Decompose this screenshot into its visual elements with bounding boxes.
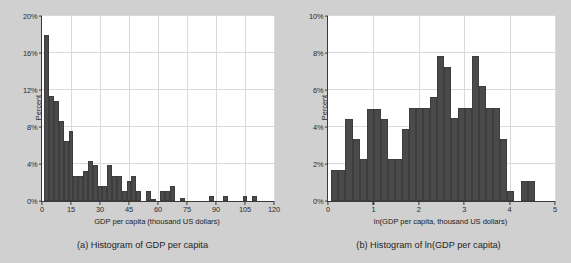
histogram-bar <box>472 56 479 201</box>
histogram-bar <box>388 159 395 201</box>
x-axis-tick-mark <box>418 201 419 205</box>
gridline-vertical <box>158 16 159 201</box>
x-axis-tick-mark <box>509 201 510 205</box>
chart-a-x-axis-label: GDP per capita (thousand US dollars) <box>41 217 273 226</box>
x-axis-tick-mark <box>99 201 100 205</box>
gridline-horizontal <box>328 52 555 53</box>
histogram-bar <box>486 108 493 201</box>
histogram-bar <box>528 181 535 201</box>
chart-b-x-axis-label: ln(GDP per capita, thousand US dollars) <box>327 217 554 226</box>
histogram-bar <box>374 109 381 202</box>
chart-a-y-axis-label: Percent <box>34 77 43 137</box>
chart-b-caption: (b) Histogram of ln(GDP per capita) <box>286 240 571 250</box>
chart-b-axes: 0%2%4%6%8%10%012345 <box>327 16 555 202</box>
histogram-bar <box>451 118 458 201</box>
histogram-bar <box>409 108 416 201</box>
histogram-bar <box>507 191 514 201</box>
chart-b-y-axis-label: Percent <box>320 77 329 137</box>
x-axis-tick-mark <box>41 201 42 205</box>
gridline-vertical <box>216 16 217 201</box>
gridline-vertical <box>555 16 556 201</box>
histogram-bar <box>500 139 507 201</box>
histogram-bar <box>430 97 437 201</box>
y-axis-tick-mark <box>325 52 329 53</box>
histogram-bar <box>360 159 367 201</box>
histogram-bar <box>479 86 486 201</box>
x-axis-tick-mark <box>244 201 245 205</box>
figure-canvas: 0%4%8%12%16%20%0153045607590105120 Perce… <box>0 0 571 263</box>
histogram-bar <box>444 67 451 201</box>
histogram-bar <box>345 119 352 201</box>
gridline-vertical <box>187 16 188 201</box>
chart-a-plot-area: 0%4%8%12%16%20%0153045607590105120 <box>41 16 273 201</box>
histogram-bar <box>331 170 338 201</box>
x-axis-tick-mark <box>554 201 555 205</box>
x-axis-tick-mark <box>186 201 187 205</box>
histogram-bar <box>493 108 500 201</box>
histogram-bar <box>521 181 528 201</box>
x-axis-tick-mark <box>327 201 328 205</box>
x-axis-tick-mark <box>128 201 129 205</box>
histogram-bar <box>170 186 175 201</box>
y-axis-tick-mark <box>325 15 329 16</box>
histogram-bar <box>402 129 409 201</box>
histogram-bar <box>136 191 141 201</box>
x-axis-tick-mark <box>373 201 374 205</box>
histogram-bar <box>465 108 472 201</box>
x-axis-tick-mark <box>273 201 274 205</box>
histogram-bar <box>395 159 402 201</box>
histogram-bar <box>252 196 257 201</box>
histogram-bar <box>416 108 423 201</box>
histogram-bar <box>381 119 388 201</box>
histogram-bar <box>353 139 360 201</box>
y-axis-tick-mark <box>39 163 43 164</box>
chart-b-plot-area: 0%2%4%6%8%10%012345 <box>327 16 554 201</box>
histogram-bar <box>437 56 444 201</box>
histogram-bar <box>338 170 345 201</box>
histogram-bar <box>223 196 228 201</box>
gridline-vertical <box>274 16 275 201</box>
x-axis-tick-mark <box>215 201 216 205</box>
gridline-vertical <box>100 16 101 201</box>
gridline-horizontal <box>328 15 555 16</box>
gridline-vertical <box>510 16 511 201</box>
gridline-vertical <box>245 16 246 201</box>
histogram-bar <box>458 108 465 201</box>
panel-b: 0%2%4%6%8%10%012345 Percent ln(GDP per c… <box>286 0 571 263</box>
histogram-bar <box>423 108 430 201</box>
y-axis-tick-mark <box>325 163 329 164</box>
gridline-vertical <box>129 16 130 201</box>
x-axis-tick-mark <box>157 201 158 205</box>
histogram-bar <box>367 109 374 202</box>
chart-a-axes: 0%4%8%12%16%20%0153045607590105120 <box>41 16 274 202</box>
x-axis-tick-mark <box>464 201 465 205</box>
panel-a: 0%4%8%12%16%20%0153045607590105120 Perce… <box>0 0 285 263</box>
chart-a-caption: (a) Histogram of GDP per capita <box>0 240 285 250</box>
y-axis-tick-mark <box>39 15 43 16</box>
x-axis-tick-mark <box>70 201 71 205</box>
y-axis-tick-mark <box>39 52 43 53</box>
